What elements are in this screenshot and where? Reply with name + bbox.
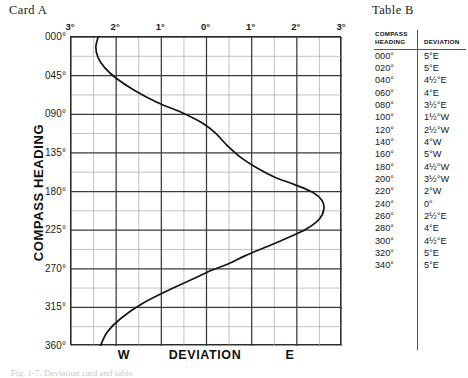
table-row: 160°5°W — [374, 148, 466, 160]
cell-deviation: 4½°W — [418, 160, 467, 172]
cell-deviation: 2½°E — [418, 210, 467, 222]
table-row: 080°3½°E — [374, 99, 466, 111]
x-tick-label: 0° — [201, 21, 210, 32]
cell-deviation: 3½°E — [418, 99, 467, 111]
cell-compass-heading: 100° — [374, 111, 418, 123]
cell-deviation: 5°W — [418, 148, 467, 160]
cell-deviation: 4½°E — [418, 74, 467, 86]
cell-deviation: 4°E — [418, 222, 467, 234]
cell-deviation: 4°W — [418, 136, 467, 148]
cell-compass-heading: 120° — [374, 123, 418, 135]
cell-compass-heading: 200° — [374, 173, 418, 185]
cell-compass-heading: 220° — [374, 185, 418, 197]
col-header-compass-heading: COMPASS HEADING — [374, 30, 418, 49]
table-row: 100°1½°W — [374, 111, 466, 123]
cell-deviation: 5°E — [418, 49, 467, 62]
table-row: 280°4°E — [374, 222, 466, 234]
cell-compass-heading: 060° — [374, 86, 418, 98]
table-row: 240°0° — [374, 197, 466, 209]
y-tick-label: 045° — [2, 69, 66, 80]
x-tick-label: 3° — [65, 21, 74, 32]
table-row: 060°4°E — [374, 86, 466, 98]
y-axis-title: COMPASS HEADING — [31, 108, 46, 278]
x-tick-label: 2° — [291, 21, 300, 32]
cell-compass-heading: 040° — [374, 74, 418, 86]
cell-deviation: 2½°W — [418, 123, 467, 135]
figure-caption: Fig. 1-7. Deviation card and table. — [11, 368, 134, 377]
grid-and-curve — [71, 37, 342, 346]
table-row: 040°4½°E — [374, 74, 466, 86]
y-tick-label: 315° — [2, 301, 66, 312]
plot-area — [70, 36, 341, 345]
table-body: 000°5°E020°5°E040°4½°E060°4°E080°3½°E100… — [374, 49, 466, 271]
cell-deviation: 2°W — [418, 185, 467, 197]
table-row: 220°2°W — [374, 185, 466, 197]
col-header-line1: COMPASS — [375, 30, 408, 37]
cell-compass-heading: 280° — [374, 222, 418, 234]
y-tick-label: 000° — [2, 31, 66, 42]
table-head: COMPASS HEADING DEVIATION — [374, 30, 466, 49]
table-row: 200°3½°W — [374, 173, 466, 185]
table-title: Table B — [372, 3, 414, 18]
table-row: 320°5°E — [374, 247, 466, 259]
cell-deviation: 4½°E — [418, 234, 467, 246]
table-header-row: COMPASS HEADING DEVIATION — [374, 30, 466, 49]
x-tick-label: 2° — [111, 21, 120, 32]
east-label: E — [286, 348, 295, 362]
major-gridlines — [71, 37, 342, 346]
cell-compass-heading: 260° — [374, 210, 418, 222]
cell-deviation: 5°E — [418, 259, 467, 271]
cell-compass-heading: 080° — [374, 99, 418, 111]
table-row: 340°5°E — [374, 259, 466, 271]
cell-deviation: 4°E — [418, 86, 467, 98]
cell-deviation: 3½°W — [418, 173, 467, 185]
cell-compass-heading: 000° — [374, 49, 418, 62]
cell-deviation: 5°E — [418, 247, 467, 259]
table-row: 180°4½°W — [374, 160, 466, 172]
cell-deviation: 5°E — [418, 62, 467, 74]
deviation-table: COMPASS HEADING DEVIATION 000°5°E020°5°E… — [374, 30, 466, 271]
x-tick-label: 1° — [156, 21, 165, 32]
deviation-table-wrapper: COMPASS HEADING DEVIATION 000°5°E020°5°E… — [374, 30, 466, 271]
table-row: 260°2½°E — [374, 210, 466, 222]
cell-compass-heading: 240° — [374, 197, 418, 209]
cell-compass-heading: 180° — [374, 160, 418, 172]
cell-compass-heading: 340° — [374, 259, 418, 271]
x-tick-label: 3° — [336, 21, 345, 32]
x-tick-label: 1° — [246, 21, 255, 32]
col-header-deviation: DEVIATION — [418, 30, 467, 49]
table-row: 140°4°W — [374, 136, 466, 148]
col-header-line2: HEADING — [375, 38, 405, 45]
cell-compass-heading: 300° — [374, 234, 418, 246]
cell-deviation: 0° — [418, 197, 467, 209]
cell-deviation: 1½°W — [418, 111, 467, 123]
table-row: 020°5°E — [374, 62, 466, 74]
table-row: 300°4½°E — [374, 234, 466, 246]
cell-compass-heading: 020° — [374, 62, 418, 74]
cell-compass-heading: 140° — [374, 136, 418, 148]
cell-compass-heading: 160° — [374, 148, 418, 160]
table-row: 120°2½°W — [374, 123, 466, 135]
x-axis-title: DEVIATION — [169, 348, 242, 362]
west-label: W — [118, 348, 130, 362]
deviation-card-figure: Card A 3°2°1°0°1°2°3° 000°045°090°135°18… — [0, 0, 468, 378]
cell-compass-heading: 320° — [374, 247, 418, 259]
deviation-chart: Card A 3°2°1°0°1°2°3° 000°045°090°135°18… — [0, 0, 360, 378]
y-tick-label: 360° — [2, 340, 66, 351]
table-row: 000°5°E — [374, 49, 466, 62]
